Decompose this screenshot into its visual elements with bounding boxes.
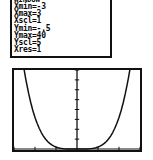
window-settings-panel: WINDOW Xmin=-3 Xmax=3 Xscl=1 Ymin=-.5 Ym… <box>10 0 112 58</box>
setting-value-xres[interactable]: 1 <box>37 45 42 54</box>
graph-screen[interactable] <box>12 68 142 152</box>
setting-label-xres: Xres <box>14 45 32 54</box>
graph-plot-area <box>14 70 140 150</box>
graph-svg <box>14 70 140 150</box>
y-axis <box>75 70 79 150</box>
window-settings-list: Xmin=-3 Xmax=3 Xscl=1 Ymin=-.5 Ymax=40 Y… <box>12 3 110 53</box>
setting-row-xres[interactable]: Xres=1 <box>14 46 110 53</box>
